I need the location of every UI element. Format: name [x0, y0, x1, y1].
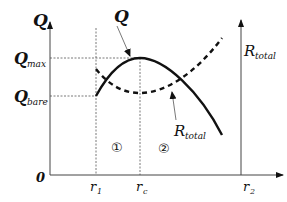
region-1-marker: ①: [111, 140, 123, 155]
svg-text:c: c: [143, 187, 148, 196]
svg-text:r: r: [243, 179, 250, 194]
svg-text:Q: Q: [14, 49, 28, 68]
svg-text:R: R: [243, 42, 255, 60]
svg-text:R: R: [173, 122, 185, 140]
q-bare-label: Q bare: [14, 87, 48, 107]
rc-label: r c: [136, 179, 148, 196]
svg-text:bare: bare: [27, 97, 48, 107]
svg-text:total: total: [255, 51, 276, 61]
svg-text:2: 2: [249, 187, 255, 196]
guide-lines: [50, 28, 140, 175]
q-curve-label: Q: [114, 6, 129, 26]
r-total-curve-label: R total: [173, 122, 206, 141]
r-total-curve: [96, 38, 222, 93]
svg-text:Q: Q: [14, 87, 28, 106]
q-pointer-arrow: [117, 26, 130, 56]
svg-text:total: total: [185, 131, 206, 141]
diagram-canvas: Q Q Q max Q bare R total R total 0 r 1 r…: [0, 0, 287, 202]
region-2-marker: ②: [158, 141, 170, 156]
origin-label: 0: [36, 170, 45, 185]
r-total-pointer-arrow: [172, 92, 176, 120]
svg-text:r: r: [136, 179, 143, 194]
right-axis-label: R total: [243, 42, 276, 61]
r1-label: r 1: [90, 179, 102, 196]
q-curve: [96, 58, 222, 135]
svg-text:max: max: [27, 59, 46, 69]
svg-text:r: r: [90, 179, 97, 194]
left-axis-label: Q: [33, 10, 48, 30]
q-max-label: Q max: [14, 49, 46, 69]
x-axis-label: r 2: [243, 179, 255, 196]
svg-text:1: 1: [97, 187, 102, 196]
